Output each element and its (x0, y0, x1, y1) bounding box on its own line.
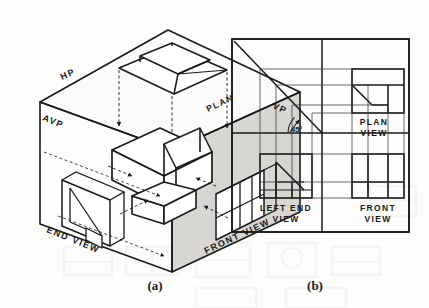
panel-a-projection-box: HP AVP VP PLAN END VIEW FRONT VIEW (40, 30, 300, 272)
caption-panel-a: (a) (135, 278, 175, 294)
label-left-end-view-line2: VIEW (273, 214, 300, 224)
label-hp: HP (59, 66, 77, 81)
label-plan-view-line2: VIEW (361, 128, 388, 138)
caption-panel-b: (b) (295, 278, 335, 294)
label-front-view-line1: FRONT (360, 203, 396, 213)
label-left-end-view-line1: LEFT END (260, 203, 312, 213)
label-avp: AVP (41, 113, 65, 131)
front-view-orthographic (352, 154, 404, 198)
figure-container: HP AVP VP PLAN END VIEW FRONT VIEW (0, 0, 429, 308)
label-angle-45: 45° (291, 125, 302, 134)
plan-view-orthographic (352, 69, 404, 113)
label-front-view-line2: VIEW (365, 214, 392, 224)
label-plan-view-line1: PLAN (360, 117, 388, 127)
figure-svg: HP AVP VP PLAN END VIEW FRONT VIEW (0, 0, 429, 308)
